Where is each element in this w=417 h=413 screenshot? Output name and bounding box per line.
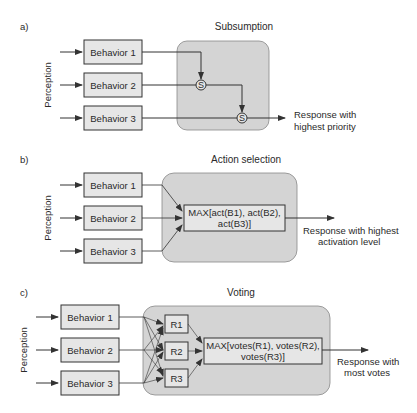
output-label: Response with	[337, 356, 399, 367]
svg-text:Behavior 2: Behavior 2	[90, 80, 135, 91]
svg-text:votes(R3)]: votes(R3)]	[241, 351, 285, 362]
diagram-canvas: a) Subsumption Perception Behavior 1 Beh…	[0, 0, 417, 413]
output-label: most votes	[344, 367, 390, 378]
panel-letter: c)	[20, 287, 28, 298]
output-label: highest priority	[294, 121, 356, 132]
svg-text:Behavior 1: Behavior 1	[67, 312, 112, 323]
behavior-box: Behavior 2	[84, 73, 142, 97]
panel-letter: a)	[20, 21, 28, 32]
svg-text:act(B3)]: act(B3)]	[218, 218, 251, 229]
suppression-node: S	[196, 80, 206, 90]
panel-title: Voting	[227, 287, 255, 298]
svg-text:MAX[act(B1), act(B2),: MAX[act(B1), act(B2),	[188, 207, 280, 218]
svg-text:R2: R2	[170, 346, 182, 357]
behavior-box: Behavior 1	[61, 305, 119, 329]
svg-text:Behavior 3: Behavior 3	[67, 378, 112, 389]
perception-label: Perception	[18, 327, 29, 372]
max-selector-box: MAX[act(B1), act(B2), act(B3)]	[184, 205, 285, 231]
output-label: activation level	[318, 236, 380, 247]
svg-text:R1: R1	[170, 319, 182, 330]
svg-text:Behavior 3: Behavior 3	[90, 113, 135, 124]
behavior-box: Behavior 1	[84, 173, 142, 197]
panel-title: Subsumption	[215, 21, 273, 32]
behavior-box: Behavior 2	[84, 206, 142, 230]
svg-text:Behavior 1: Behavior 1	[90, 47, 135, 58]
svg-text:R3: R3	[170, 373, 182, 384]
behavior-box: Behavior 3	[84, 239, 142, 263]
perception-label: Perception	[42, 195, 53, 240]
behavior-box: Behavior 3	[61, 371, 119, 395]
max-votes-box: MAX[votes(R1), votes(R2), votes(R3)]	[204, 338, 322, 364]
panel-subsumption: a) Subsumption Perception Behavior 1 Beh…	[20, 21, 356, 132]
response-box: R3	[165, 369, 188, 387]
response-box: R1	[165, 315, 188, 333]
svg-text:Behavior 2: Behavior 2	[90, 213, 135, 224]
svg-text:MAX[votes(R1), votes(R2),: MAX[votes(R1), votes(R2),	[206, 340, 320, 351]
behavior-box: Behavior 1	[84, 40, 142, 64]
suppression-node: S	[237, 113, 247, 123]
behavior-box: Behavior 3	[84, 106, 142, 130]
svg-text:S: S	[239, 113, 245, 123]
output-label: Response with	[294, 109, 356, 120]
panel-letter: b)	[20, 154, 28, 165]
output-label: Response with highest	[303, 225, 399, 236]
response-box: R2	[165, 342, 188, 360]
svg-text:Behavior 3: Behavior 3	[90, 246, 135, 257]
panel-action-selection: b) Action selection Perception Behavior …	[20, 154, 399, 263]
panel-title: Action selection	[211, 154, 281, 165]
perception-label: Perception	[42, 62, 53, 107]
svg-text:Behavior 1: Behavior 1	[90, 180, 135, 191]
svg-text:S: S	[198, 80, 204, 90]
behavior-box: Behavior 2	[61, 338, 119, 362]
panel-voting: c) Voting Perception Behavior 1 Behavior…	[18, 287, 399, 395]
svg-text:Behavior 2: Behavior 2	[67, 345, 112, 356]
